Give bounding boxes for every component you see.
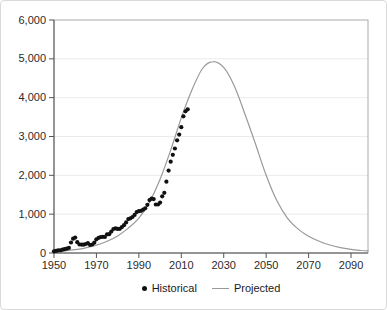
gridlines (54, 59, 368, 214)
historical-point (143, 206, 147, 210)
historical-point (167, 169, 171, 173)
historical-point (162, 191, 166, 195)
x-tick-label: 2090 (339, 259, 363, 271)
historical-point (145, 203, 149, 207)
x-tick-label: 2070 (296, 259, 320, 271)
historical-point (173, 146, 177, 150)
historical-point (186, 107, 190, 111)
y-tick-label: 2,000 (18, 169, 46, 181)
x-tick-label: 2050 (254, 259, 278, 271)
historical-point (67, 246, 71, 250)
historical-series (52, 107, 190, 253)
x-tick-label: 1990 (127, 259, 151, 271)
historical-point (177, 133, 181, 137)
historical-point (179, 125, 183, 129)
historical-point (171, 153, 175, 157)
historical-point (73, 236, 77, 240)
historical-point (152, 197, 156, 201)
legend-item-historical: Historical (142, 282, 197, 294)
historical-point (169, 160, 173, 164)
projected-line (54, 62, 368, 252)
y-tick-label: 0 (40, 247, 46, 259)
chart-legend: Historical Projected (54, 280, 368, 296)
x-tick-label: 2010 (169, 259, 193, 271)
tick-labels: 01,0002,0003,0004,0005,0006,000195019701… (18, 14, 363, 272)
production-forecast-chart: 01,0002,0003,0004,0005,0006,000195019701… (1, 1, 386, 309)
x-tick-label: 2030 (211, 259, 235, 271)
figure-page: 01,0002,0003,0004,0005,0006,000195019701… (0, 0, 387, 310)
historical-point (164, 180, 168, 184)
y-tick-label: 3,000 (18, 130, 46, 142)
legend-item-projected: Projected (212, 282, 280, 294)
historical-point (181, 114, 185, 118)
historical-dot-icon (142, 286, 147, 291)
y-tick-label: 1,000 (18, 208, 46, 220)
projected-line-icon (212, 288, 229, 289)
x-tick-label: 1970 (84, 259, 108, 271)
y-tick-label: 6,000 (18, 14, 46, 26)
chart-canvas: 01,0002,0003,0004,0005,0006,000195019701… (1, 1, 387, 310)
legend-label-projected: Projected (234, 282, 280, 294)
historical-point (175, 138, 179, 142)
y-tick-label: 5,000 (18, 52, 46, 64)
x-tick-label: 1950 (42, 259, 66, 271)
historical-point (69, 240, 73, 244)
historical-point (158, 201, 162, 205)
historical-point (160, 194, 164, 198)
y-tick-label: 4,000 (18, 91, 46, 103)
legend-label-historical: Historical (152, 282, 197, 294)
tick-marks (49, 20, 351, 258)
